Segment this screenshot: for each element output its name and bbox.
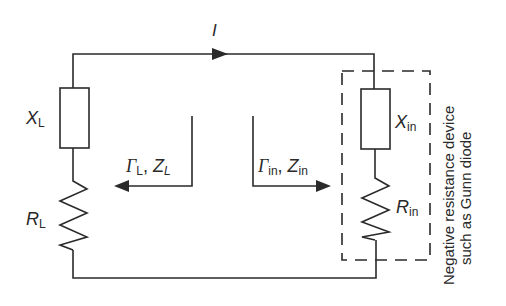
device-caption-line2: such as Gunn diode [457,132,474,265]
load-reactance-label: XL [25,108,45,130]
device-reflection-label: Γin,Zin [257,156,308,178]
device-reactance-label: Xin [394,112,416,134]
device-resistor-zigzag [362,175,389,240]
device-reflection-arrow-icon [316,180,331,192]
load-reflection-arrow-icon [114,180,129,192]
circuit-diagram: I XL RL Xin Rin ΓL,ZL Γin,Zin Negative r… [0,0,506,306]
load-resistance-label: RL [26,209,46,231]
load-reflection-label: ΓL,ZL [125,156,171,178]
device-reactance-box [361,89,390,149]
device-resistance-label: Rin [396,197,418,219]
current-label: I [212,21,217,40]
current-arrow-icon [212,48,228,60]
wire-bottom [73,240,376,278]
device-caption-line1: Negative resistance device [440,106,457,285]
load-reactance-box [60,88,89,148]
wire-top [73,54,374,89]
device-caption: Negative resistance device such as Gunn … [440,106,474,285]
load-resistor-zigzag [60,178,87,250]
circuit-wires [73,54,376,278]
